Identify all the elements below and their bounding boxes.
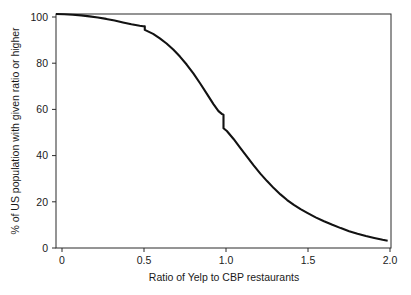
y-tick-label-80: 80 — [36, 57, 48, 69]
x-tick-label-1p0: 1.0 — [219, 254, 234, 266]
x-tick-label-1p5: 1.5 — [301, 254, 316, 266]
y-axis-title: % of US population with given ratio or h… — [9, 27, 21, 235]
x-tick-label-2p0: 2.0 — [383, 254, 398, 266]
x-axis-title: Ratio of Yelp to CBP restaurants — [149, 271, 299, 283]
chart-figure: 100 80 60 40 20 0 0 0.5 1.0 1.5 2.0 Rati… — [0, 0, 411, 295]
y-tick-label-20: 20 — [36, 196, 48, 208]
x-tick-label-0: 0 — [59, 254, 65, 266]
y-tick-label-60: 60 — [36, 103, 48, 115]
chart-canvas: 100 80 60 40 20 0 0 0.5 1.0 1.5 2.0 Rati… — [0, 0, 411, 295]
y-tick-label-100: 100 — [30, 11, 48, 23]
y-tick-label-40: 40 — [36, 149, 48, 161]
y-tick-label-0: 0 — [42, 242, 48, 254]
x-tick-label-0p5: 0.5 — [137, 254, 152, 266]
